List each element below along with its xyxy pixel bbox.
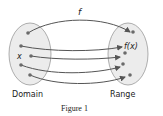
figure-caption: Figure 1	[61, 104, 88, 113]
domain-label: Domain	[12, 90, 43, 99]
image-fx-label: f(x)	[124, 42, 138, 51]
function-label: f	[78, 7, 83, 17]
range-label: Range	[110, 90, 135, 99]
element-x-label: x	[16, 52, 22, 61]
function-mapping-diagram: f x f(x) Domain Range Figure 1	[0, 0, 163, 116]
range-set-ellipse	[108, 23, 148, 85]
